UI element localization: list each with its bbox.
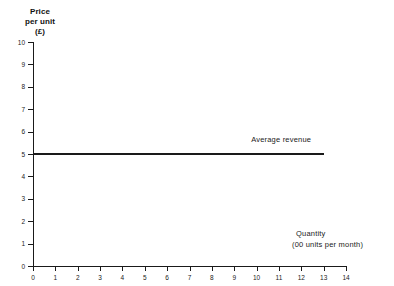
y-tick-3	[28, 199, 33, 200]
x-tick-4	[122, 266, 123, 271]
x-tick-label-9: 9	[226, 274, 242, 281]
x-tick-7	[190, 266, 191, 271]
x-tick-label-3: 3	[92, 274, 108, 281]
x-tick-11	[279, 266, 280, 271]
x-tick-label-6: 6	[159, 274, 175, 281]
y-tick-label-7: 7	[8, 106, 25, 113]
y-tick-label-3: 3	[8, 195, 25, 202]
y-axis-title: Price per unit (£)	[14, 7, 66, 37]
x-tick-0	[33, 266, 34, 271]
x-tick-10	[257, 266, 258, 271]
y-tick-label-8: 8	[8, 83, 25, 90]
x-tick-8	[212, 266, 213, 271]
x-tick-label-11: 11	[271, 274, 287, 281]
x-tick-9	[234, 266, 235, 271]
y-tick-9	[28, 64, 33, 65]
y-tick-label-1: 1	[8, 240, 25, 247]
x-tick-6	[167, 266, 168, 271]
x-tick-label-10: 10	[249, 274, 265, 281]
y-axis-title-line-2: per unit	[14, 17, 66, 27]
y-axis-title-line-3: (£)	[14, 27, 66, 37]
y-tick-6	[28, 132, 33, 133]
x-tick-13	[324, 266, 325, 271]
x-tick-label-4: 4	[114, 274, 130, 281]
x-tick-label-13: 13	[316, 274, 332, 281]
y-tick-label-0: 0	[8, 263, 25, 270]
x-tick-label-12: 12	[293, 274, 309, 281]
x-tick-label-2: 2	[70, 274, 86, 281]
y-tick-2	[28, 221, 33, 222]
y-tick-10	[28, 42, 33, 43]
y-tick-label-4: 4	[8, 173, 25, 180]
average-revenue-line	[33, 153, 324, 155]
x-tick-12	[301, 266, 302, 271]
x-tick-label-14: 14	[338, 274, 354, 281]
x-tick-2	[78, 266, 79, 271]
x-tick-5	[145, 266, 146, 271]
y-axis-title-line-1: Price	[14, 7, 66, 17]
y-tick-label-2: 2	[8, 218, 25, 225]
x-axis-title-line-1: Quantity	[296, 228, 363, 239]
x-tick-3	[100, 266, 101, 271]
y-tick-4	[28, 176, 33, 177]
x-tick-14	[346, 266, 347, 271]
average-revenue-chart: Price per unit (£) 012345678910 01234567…	[0, 0, 394, 286]
x-axis-title-line-2: (00 units per month)	[292, 239, 363, 250]
x-tick-label-7: 7	[182, 274, 198, 281]
y-tick-label-9: 9	[8, 61, 25, 68]
y-tick-label-10: 10	[8, 39, 25, 46]
y-tick-7	[28, 109, 33, 110]
y-tick-8	[28, 87, 33, 88]
x-tick-label-5: 5	[137, 274, 153, 281]
x-tick-label-0: 0	[25, 274, 41, 281]
x-tick-label-8: 8	[204, 274, 220, 281]
y-tick-label-6: 6	[8, 128, 25, 135]
average-revenue-label: Average revenue	[251, 135, 311, 144]
y-tick-1	[28, 244, 33, 245]
x-axis-title: Quantity (00 units per month)	[296, 228, 363, 250]
x-tick-1	[55, 266, 56, 271]
y-tick-label-5: 5	[8, 151, 25, 158]
x-tick-label-1: 1	[47, 274, 63, 281]
